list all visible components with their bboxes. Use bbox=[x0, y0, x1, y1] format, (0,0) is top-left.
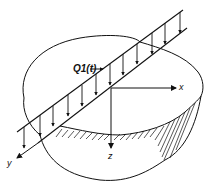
diagram-svg bbox=[0, 0, 210, 188]
load-strip-upper-edge bbox=[17, 10, 183, 132]
z-axis-label: z bbox=[108, 152, 113, 161]
load-strip-lower-edge bbox=[38, 28, 187, 143]
load-label: Q1(t) bbox=[73, 64, 96, 74]
hatched-cut-face bbox=[56, 103, 195, 160]
y-axis-arrow bbox=[17, 143, 38, 158]
line-load-strip bbox=[17, 10, 187, 143]
y-axis-label: y bbox=[7, 159, 12, 168]
diagram-canvas: Q1(t) x y z bbox=[0, 0, 210, 188]
x-axis-label: x bbox=[179, 83, 184, 92]
